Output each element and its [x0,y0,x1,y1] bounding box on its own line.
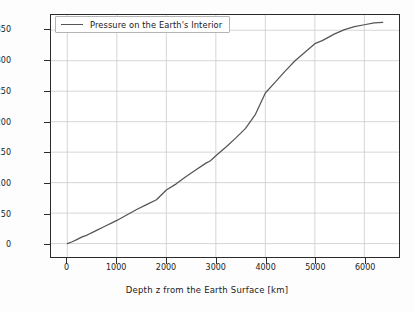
y-tick-mark [44,122,50,123]
legend-line-swatch [61,24,83,25]
x-tick-label: 0 [64,263,69,272]
figure: Pressure on the Earth's Interior P [GPa]… [0,0,414,312]
plot-area [50,14,400,258]
x-tick-label: 1000 [106,263,126,272]
x-tick-label: 2000 [156,263,176,272]
legend-label: Pressure on the Earth's Interior [90,20,222,30]
x-tick-label: 4000 [255,263,275,272]
x-tick-mark [216,258,217,264]
y-tick-label: 0 [0,240,11,249]
x-tick-mark [66,258,67,264]
y-tick-mark [44,152,50,153]
y-tick-mark [44,29,50,30]
y-tick-label: 100 [0,179,11,188]
x-axis-label: Depth z from the Earth Surface [km] [0,285,414,295]
x-tick-mark [116,258,117,264]
y-tick-label: 350 [0,25,11,34]
y-tick-label: 150 [0,148,11,157]
y-tick-mark [44,183,50,184]
pressure-curve [51,15,399,257]
y-tick-label: 300 [0,56,11,65]
y-tick-mark [44,214,50,215]
y-tick-mark [44,60,50,61]
y-tick-label: 50 [0,209,11,218]
x-tick-mark [166,258,167,264]
x-tick-mark [365,258,366,264]
y-tick-mark [44,91,50,92]
x-tick-label: 5000 [305,263,325,272]
x-tick-mark [315,258,316,264]
legend[interactable]: Pressure on the Earth's Interior [55,16,230,33]
y-tick-mark [44,244,50,245]
x-tick-label: 6000 [355,263,375,272]
x-tick-mark [266,258,267,264]
x-tick-label: 3000 [206,263,226,272]
y-tick-label: 250 [0,86,11,95]
y-tick-label: 200 [0,117,11,126]
